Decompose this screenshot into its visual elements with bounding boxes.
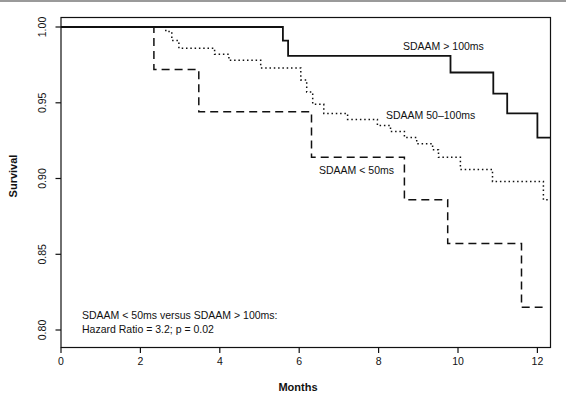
curve-label-sdaam-gt-100ms: SDAAM > 100ms: [403, 40, 484, 52]
x-tick-label: 8: [376, 355, 382, 367]
x-axis: 024681012: [58, 348, 543, 367]
y-tick-label: 0.85: [36, 244, 48, 265]
y-tick-label: 1.00: [36, 17, 48, 38]
x-tick-label: 0: [58, 355, 64, 367]
annotation-line2: Hazard Ratio = 3.2; p = 0.02: [82, 323, 214, 335]
y-tick-label: 0.80: [36, 320, 48, 341]
survival-chart: 024681012 1.000.950.900.850.80 Months Su…: [0, 2, 566, 399]
curve-sdaam-lt-50ms: [61, 27, 543, 307]
curve-label-sdaam-50-100ms: SDAAM 50–100ms: [386, 109, 475, 121]
survival-figure: 024681012 1.000.950.900.850.80 Months Su…: [0, 0, 566, 399]
x-tick-label: 2: [137, 355, 143, 367]
curve-sdaam-50-100ms: [61, 27, 551, 200]
annotation-line1: SDAAM < 50ms versus SDAAM > 100ms:: [82, 309, 277, 321]
x-tick-label: 12: [532, 355, 544, 367]
y-axis: 1.000.950.900.850.80: [36, 17, 61, 341]
plot-border: [61, 18, 551, 348]
x-tick-label: 4: [217, 355, 223, 367]
curves-layer: [61, 27, 551, 307]
y-tick-label: 0.90: [36, 168, 48, 189]
x-tick-label: 6: [296, 355, 302, 367]
y-axis-title: Survival: [7, 155, 19, 198]
curve-label-sdaam-lt-50ms: SDAAM < 50ms: [319, 164, 394, 176]
x-axis-title: Months: [278, 381, 317, 393]
y-tick-label: 0.95: [36, 92, 48, 113]
x-tick-label: 10: [452, 355, 464, 367]
